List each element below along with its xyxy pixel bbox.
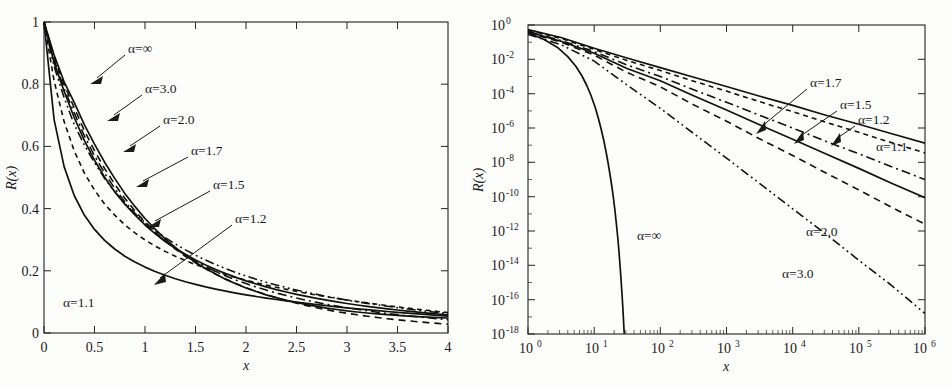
left-ytick-0.8: 0.8 [22,77,40,92]
right-x-tick-labels: 10 0 10 1 10 2 10 3 10 4 10 5 10 6 [519,339,936,356]
left-ytick-0.6: 0.6 [22,139,40,154]
right-xtick-base-6: 10 [913,341,927,356]
left-panel: 0 0.5 1 1.5 2 2.5 3 3.5 4 0 0.2 0.4 0.6 … [4,15,452,373]
right-xtick-base-2: 10 [651,341,665,356]
right-label-alpha-inf: α=∞ [637,228,661,243]
right-label-alpha-1p7: α=1.7 [810,75,842,90]
right-yaxis-title: R(x) [471,168,487,193]
left-curve-alpha-inf [44,22,448,318]
left-xtick-4: 4 [445,340,452,355]
figure-container: 0 0.5 1 1.5 2 2.5 3 3.5 4 0 0.2 0.4 0.6 … [0,0,951,387]
right-ytick-exp-10: -10 [506,188,519,198]
right-ytick-exp-8: -8 [506,153,514,163]
left-curve-alpha-2p0 [44,22,448,320]
right-xtick-exp-2: 2 [669,339,674,349]
left-annotations: α=∞ α=3.0 α=2.0 α=1.7 α=1.5 [63,41,267,310]
left-xtick-0: 0 [41,340,48,355]
right-ytick-base-0: 10 [491,18,505,33]
right-xtick-base-1: 10 [585,341,599,356]
right-xtick-base-3: 10 [717,341,731,356]
left-xtick-0.5: 0.5 [86,340,104,355]
right-label-alpha-1p2: α=1.2 [858,112,890,127]
left-xtick-3.5: 3.5 [389,340,407,355]
right-curve-alpha-2p0 [528,33,925,225]
left-xaxis-title: x [242,358,250,373]
right-xtick-base-0: 10 [519,341,533,356]
left-xtick-1.5: 1.5 [187,340,205,355]
right-ytick-exp-16: -16 [506,291,519,301]
left-yaxis-title: R(x) [4,166,20,191]
left-label-alpha-inf: α=∞ [128,41,152,56]
right-ytick-base-2: 10 [491,52,505,67]
left-xtick-1: 1 [142,340,149,355]
right-ytick-base-14: 10 [491,258,505,273]
left-ytick-1: 1 [32,15,39,30]
left-ytick-0.2: 0.2 [22,264,40,279]
left-ytick-0: 0 [32,326,39,341]
left-label-alpha-1p2: α=1.2 [235,211,267,226]
right-ytick-exp-6: -6 [506,119,514,129]
left-label-alpha-1p5: α=1.5 [213,177,245,192]
right-curves [528,30,925,334]
right-ytick-exp-14: -14 [506,256,519,266]
right-curve-alpha-inf [528,33,624,334]
left-annotation-alpha-1p5: α=1.5 [148,177,245,227]
right-xtick-exp-6: 6 [931,339,936,349]
right-panel: 10 0 10 1 10 2 10 3 10 4 10 5 10 6 10 0 … [471,16,936,374]
right-xtick-exp-1: 1 [603,339,608,349]
right-xtick-exp-0: 0 [537,339,542,349]
right-xaxis-title: x [722,359,730,374]
right-x-ticks [528,25,925,334]
left-label-alpha-2p0: α=2.0 [163,112,195,127]
left-xtick-2: 2 [243,340,250,355]
right-ytick-exp-18: -18 [506,325,519,335]
left-xtick-2.5: 2.5 [288,340,306,355]
right-plot-frame [528,25,925,334]
right-ytick-base-18: 10 [491,327,505,342]
left-xtick-3: 3 [344,340,351,355]
right-ytick-base-10: 10 [491,190,505,205]
right-ytick-exp-2: -2 [506,50,514,60]
right-ytick-base-16: 10 [491,293,505,308]
left-ytick-0.4: 0.4 [22,202,40,217]
right-y-ticks [528,25,925,334]
figure-svg: 0 0.5 1 1.5 2 2.5 3 3.5 4 0 0.2 0.4 0.6 … [0,0,951,387]
left-annotation-alpha-1p7: α=1.7 [136,143,223,187]
right-xtick-base-4: 10 [783,341,797,356]
right-ytick-base-4: 10 [491,87,505,102]
right-y-minor-ticks [528,42,532,317]
right-label-alpha-1p5: α=1.5 [840,97,872,112]
right-label-alpha-1p1: α=1.1 [876,139,908,154]
right-label-alpha-3p0: α=3.0 [782,266,814,281]
left-annotation-alpha-1p2: α=1.2 [154,211,267,285]
left-label-alpha-1p1: α=1.1 [63,295,95,310]
right-x-minor-ticks [548,330,922,334]
left-label-alpha-3p0: α=3.0 [145,81,177,96]
right-xtick-base-5: 10 [849,341,863,356]
left-curve-alpha-3p0 [44,22,448,324]
right-ytick-exp-4: -4 [506,85,514,95]
right-label-alpha-2p0: α=2.0 [806,224,838,239]
left-annotation-alpha-2p0: α=2.0 [123,112,195,152]
left-curves [44,22,448,324]
right-xtick-exp-4: 4 [801,339,806,349]
right-ytick-exp-12: -12 [506,222,519,232]
right-y-tick-labels: 10 0 10 -2 10 -4 10 -6 10 -8 10 -10 10 -… [491,16,519,342]
right-ytick-base-8: 10 [491,155,505,170]
left-annotation-alpha-inf: α=∞ [90,41,152,84]
right-ytick-base-12: 10 [491,224,505,239]
right-curve-alpha-3p0 [528,34,925,313]
right-xtick-exp-3: 3 [735,339,740,349]
right-ytick-exp-0: 0 [506,16,511,26]
left-label-alpha-1p7: α=1.7 [191,143,223,158]
right-xtick-exp-5: 5 [867,339,872,349]
right-ytick-base-6: 10 [491,121,505,136]
